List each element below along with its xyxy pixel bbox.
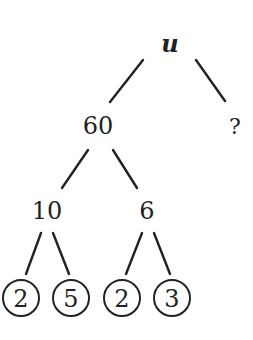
edge-10-5 xyxy=(53,233,69,274)
leaf-3: 3 xyxy=(164,285,179,313)
edge-60-10 xyxy=(62,150,88,188)
edge-6-2 xyxy=(126,233,142,274)
leaf-circles xyxy=(3,280,190,316)
tree-edges xyxy=(26,60,225,274)
factor-tree-diagram: u 60 ? 10 6 2 5 2 3 xyxy=(0,0,253,340)
edge-u-unknown xyxy=(196,60,225,101)
edge-60-6 xyxy=(113,150,137,188)
node-6: 6 xyxy=(139,197,154,225)
edge-u-60 xyxy=(110,60,143,102)
node-unknown: ? xyxy=(229,114,241,139)
edge-6-3 xyxy=(154,233,170,274)
node-10: 10 xyxy=(32,197,63,225)
leaf-2b: 2 xyxy=(114,285,129,313)
leaf-2a: 2 xyxy=(13,285,28,313)
root-node-u: u xyxy=(161,29,178,58)
edge-10-2 xyxy=(26,233,41,274)
leaf-5: 5 xyxy=(63,285,78,313)
node-60: 60 xyxy=(83,112,114,140)
